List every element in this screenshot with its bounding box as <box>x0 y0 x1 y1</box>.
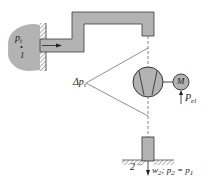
diagram-canvas <box>0 0 210 179</box>
point2-label: 2 <box>130 162 135 172</box>
point1-label: 1 <box>20 51 25 60</box>
reservoir-blob <box>8 24 40 71</box>
fan-icon <box>133 67 163 97</box>
outlet-condition-label: w2; p2 = p1 <box>152 166 193 177</box>
inlet-wall-upper <box>40 23 46 39</box>
motor-label: M <box>177 77 185 86</box>
inlet-wall-lower <box>40 51 46 71</box>
power-arrow-icon <box>179 90 183 95</box>
electric-power-label: Pel <box>185 93 196 105</box>
pressure-rise-label: Δpt <box>73 77 86 89</box>
outlet-pipe <box>142 137 154 161</box>
outlet-arrow-icon <box>146 170 150 176</box>
